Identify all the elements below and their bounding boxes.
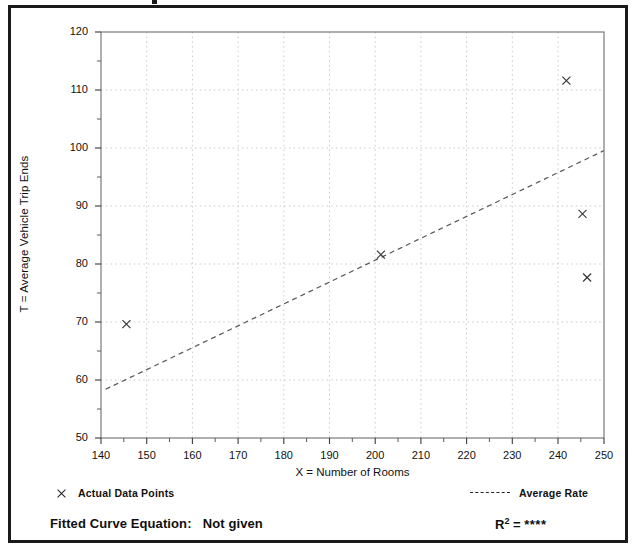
chart-annotations: Fitted Curve Equation: Not given R2 = **… — [8, 516, 628, 540]
x-tick-label: 150 — [127, 449, 167, 461]
x-tick-label: 240 — [538, 449, 578, 461]
y-axis-title: T = Average Vehicle Trip Ends — [18, 144, 30, 324]
y-tick-label: 80 — [48, 257, 88, 269]
r-squared-label: R — [495, 517, 504, 532]
r-squared-value: **** — [524, 517, 546, 532]
legend-item-data-points: Actual Data Points — [56, 487, 174, 499]
x-tick-label: 200 — [355, 449, 395, 461]
x-tick-label: 210 — [401, 449, 441, 461]
fitted-curve-value: Not given — [203, 516, 263, 531]
x-tick-label: 180 — [264, 449, 304, 461]
x-marker-icon — [56, 488, 67, 499]
plot-background — [101, 32, 604, 438]
scatter-plot-svg — [0, 0, 637, 470]
r-squared-equals: = — [509, 517, 524, 532]
y-tick-label: 60 — [48, 373, 88, 385]
x-tick-label: 220 — [447, 449, 487, 461]
chart-figure: 120 110 100 90 80 70 60 50 140 150 160 1… — [0, 0, 637, 549]
legend-label-average-rate: Average Rate — [519, 487, 588, 499]
legend-item-average-rate: Average Rate — [470, 487, 588, 499]
legend-label-data-points: Actual Data Points — [78, 487, 174, 499]
y-tick-label: 70 — [48, 315, 88, 327]
fitted-curve-equation: Fitted Curve Equation: Not given — [50, 516, 263, 531]
y-tick-label: 100 — [48, 141, 88, 153]
x-tick-label: 140 — [81, 449, 121, 461]
x-tick-label: 160 — [172, 449, 212, 461]
r-squared-annotation: R2 = **** — [495, 516, 546, 532]
y-tick-label: 120 — [48, 25, 88, 37]
chart-legend: Actual Data Points Average Rate — [8, 487, 628, 513]
x-tick-label: 170 — [218, 449, 258, 461]
y-axis-minor-ticks — [97, 61, 101, 409]
y-tick-label: 50 — [48, 431, 88, 443]
plot-area-wrapper: 120 110 100 90 80 70 60 50 140 150 160 1… — [0, 0, 637, 470]
x-tick-label: 190 — [310, 449, 350, 461]
y-tick-label: 90 — [48, 199, 88, 211]
dashed-line-icon — [470, 492, 510, 494]
x-tick-label: 230 — [492, 449, 532, 461]
fitted-curve-label: Fitted Curve Equation: — [50, 516, 192, 531]
x-tick-label: 250 — [584, 449, 624, 461]
x-axis-title: X = Number of Rooms — [101, 466, 604, 478]
y-tick-label: 110 — [48, 83, 88, 95]
